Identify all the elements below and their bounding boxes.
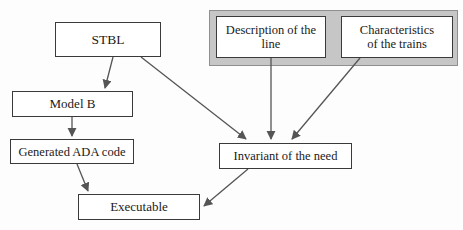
edge-invariant-to-executable: [204, 169, 248, 206]
node-characteristics-of-the-trains-label: Characteristics of the trains: [360, 23, 434, 51]
node-model-b[interactable]: Model B: [12, 91, 133, 117]
diagram-canvas: STBL Model B Generated ADA code Executab…: [0, 0, 463, 230]
node-stbl-label: STBL: [91, 32, 124, 47]
edge-stbl-to-invariant: [141, 57, 246, 139]
node-generated-ada-code-label: Generated ADA code: [19, 145, 126, 159]
node-executable[interactable]: Executable: [78, 194, 200, 220]
node-invariant-of-the-need[interactable]: Invariant of the need: [219, 143, 352, 169]
node-stbl[interactable]: STBL: [55, 22, 161, 57]
node-description-of-the-line-label: Description of the line: [226, 23, 316, 51]
node-generated-ada-code[interactable]: Generated ADA code: [10, 139, 134, 164]
edge-generated-ada-code-to-executable: [77, 164, 88, 191]
edge-characteristics-trains-to-invariant: [292, 58, 360, 139]
node-invariant-of-the-need-label: Invariant of the need: [234, 149, 338, 163]
node-model-b-label: Model B: [50, 97, 96, 112]
edge-stbl-to-model-b: [105, 57, 113, 88]
node-executable-label: Executable: [110, 200, 168, 215]
node-description-of-the-line[interactable]: Description of the line: [216, 16, 326, 58]
node-characteristics-of-the-trains[interactable]: Characteristics of the trains: [341, 16, 453, 58]
